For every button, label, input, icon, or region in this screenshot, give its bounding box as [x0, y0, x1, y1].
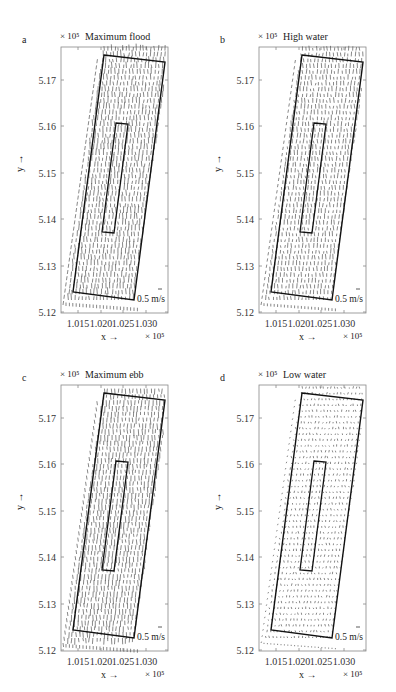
svg-text:1.025: 1.025 — [112, 318, 135, 329]
y-axis-label: y → — [14, 155, 25, 173]
svg-text:5.17: 5.17 — [39, 413, 57, 424]
svg-text:1.020: 1.020 — [288, 656, 311, 667]
y-axis-label: y → — [212, 155, 223, 173]
plot-area: 5.125.135.145.155.165.171.0151.0201.0251… — [198, 338, 396, 676]
y-axis-label: y → — [212, 493, 223, 511]
svg-text:1.020: 1.020 — [288, 318, 311, 329]
plot-area: 5.125.135.145.155.165.171.0151.0201.0251… — [198, 0, 396, 338]
x-multiplier-label: × 10⁵ — [145, 669, 164, 679]
svg-text:1.025: 1.025 — [310, 318, 333, 329]
svg-text:5.12: 5.12 — [39, 307, 57, 318]
svg-text:1.025: 1.025 — [112, 656, 135, 667]
svg-text:5.13: 5.13 — [39, 261, 57, 272]
scale-label: 0.5 m/s — [335, 294, 363, 304]
svg-text:5.16: 5.16 — [237, 459, 255, 470]
quiver-panel-a: a × 10⁵ Maximum flood 5.125.135.145.155.… — [0, 0, 198, 338]
svg-text:5.15: 5.15 — [237, 506, 255, 517]
x-multiplier-label: × 10⁵ — [343, 669, 362, 679]
svg-text:1.030: 1.030 — [135, 656, 158, 667]
quiver-panel-c: c × 10⁵ Maximum ebb 5.125.135.145.155.16… — [0, 338, 198, 676]
svg-text:5.15: 5.15 — [237, 168, 255, 179]
svg-text:5.17: 5.17 — [237, 75, 255, 86]
svg-text:1.015: 1.015 — [67, 318, 90, 329]
svg-text:5.13: 5.13 — [237, 599, 255, 610]
svg-text:5.16: 5.16 — [39, 459, 57, 470]
svg-text:1.015: 1.015 — [67, 656, 90, 667]
svg-text:5.15: 5.15 — [39, 506, 57, 517]
svg-text:1.015: 1.015 — [265, 318, 288, 329]
svg-text:5.17: 5.17 — [237, 413, 255, 424]
svg-text:1.020: 1.020 — [90, 656, 113, 667]
svg-text:5.16: 5.16 — [237, 121, 255, 132]
svg-text:5.12: 5.12 — [237, 645, 255, 656]
svg-text:1.030: 1.030 — [333, 656, 356, 667]
svg-text:5.12: 5.12 — [237, 307, 255, 318]
svg-text:1.030: 1.030 — [333, 318, 356, 329]
svg-text:5.14: 5.14 — [237, 214, 255, 225]
svg-text:5.16: 5.16 — [39, 121, 57, 132]
svg-text:1.015: 1.015 — [265, 656, 288, 667]
quiver-panel-d: d × 10⁵ Low water 5.125.135.145.155.165.… — [198, 338, 396, 676]
svg-text:1.025: 1.025 — [310, 656, 333, 667]
svg-text:1.020: 1.020 — [90, 318, 113, 329]
svg-text:5.14: 5.14 — [39, 552, 57, 563]
svg-text:5.13: 5.13 — [237, 261, 255, 272]
svg-text:5.17: 5.17 — [39, 75, 57, 86]
scale-label: 0.5 m/s — [137, 294, 165, 304]
scale-label: 0.5 m/s — [335, 632, 363, 642]
y-axis-label: y → — [14, 493, 25, 511]
plot-area: 5.125.135.145.155.165.171.0151.0201.0251… — [0, 338, 198, 676]
scale-label: 0.5 m/s — [137, 632, 165, 642]
x-axis-label: x → — [299, 669, 317, 680]
svg-text:5.15: 5.15 — [39, 168, 57, 179]
quiver-panel-b: b × 10⁵ High water 5.125.135.145.155.165… — [198, 0, 396, 338]
svg-text:5.14: 5.14 — [39, 214, 57, 225]
svg-text:5.12: 5.12 — [39, 645, 57, 656]
svg-text:1.030: 1.030 — [135, 318, 158, 329]
x-axis-label: x → — [101, 669, 119, 680]
svg-text:5.13: 5.13 — [39, 599, 57, 610]
svg-text:5.14: 5.14 — [237, 552, 255, 563]
plot-area: 5.125.135.145.155.165.171.0151.0201.0251… — [0, 0, 198, 338]
